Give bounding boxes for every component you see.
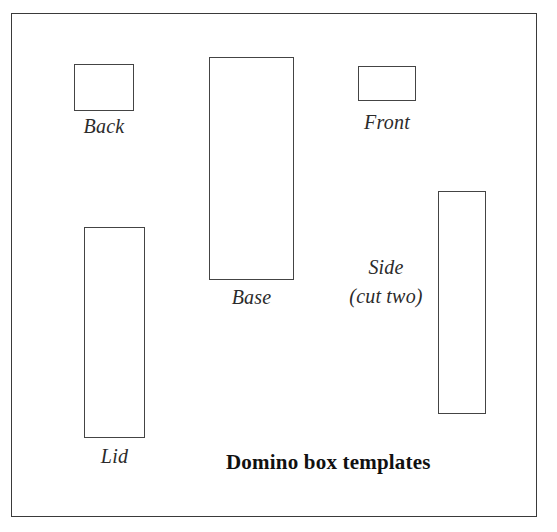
figure-caption: Domino box templates bbox=[226, 450, 431, 475]
template-shape-back bbox=[74, 64, 134, 111]
template-label-back: Back bbox=[74, 115, 134, 139]
template-label-base: Base bbox=[209, 286, 294, 310]
diagram-border-frame: Back Base Front Lid Side (cut two) Domin… bbox=[11, 13, 537, 517]
template-shape-base bbox=[209, 57, 294, 280]
template-shape-side bbox=[438, 191, 486, 414]
template-label-lid: Lid bbox=[84, 445, 145, 469]
template-shape-lid bbox=[84, 227, 145, 438]
template-label-front: Front bbox=[353, 111, 421, 135]
domino-box-templates-diagram: Back Base Front Lid Side (cut two) Domin… bbox=[0, 0, 557, 532]
template-shape-front bbox=[358, 66, 416, 101]
template-label-side: Side (cut two) bbox=[331, 253, 441, 311]
